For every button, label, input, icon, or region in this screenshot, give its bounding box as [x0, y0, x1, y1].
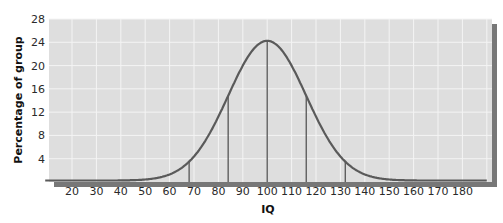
iq-distribution-chart: 282420161284 203040506070809010011012013…	[0, 0, 503, 223]
x-tick-label: 30	[89, 185, 103, 198]
y-tick-label: 12	[31, 106, 45, 119]
y-axis-ticks: 282420161284	[31, 13, 45, 166]
x-tick-label: 60	[163, 185, 177, 198]
x-tick-label: 50	[138, 185, 152, 198]
x-tick-label: 20	[65, 185, 79, 198]
x-tick-label: 150	[379, 185, 400, 198]
x-tick-label: 160	[403, 185, 424, 198]
x-tick-label: 180	[452, 185, 473, 198]
y-tick-label: 24	[31, 36, 45, 49]
x-tick-label: 70	[187, 185, 201, 198]
x-tick-label: 140	[354, 185, 375, 198]
plot-area	[49, 19, 492, 182]
x-tick-label: 100	[257, 185, 278, 198]
x-tick-label: 80	[211, 185, 225, 198]
y-tick-label: 8	[38, 129, 45, 142]
x-tick-label: 120	[306, 185, 327, 198]
x-tick-label: 90	[236, 185, 250, 198]
x-axis-title: IQ	[261, 203, 274, 216]
x-tick-label: 170	[428, 185, 449, 198]
x-tick-label: 110	[281, 185, 302, 198]
y-tick-label: 16	[31, 83, 45, 96]
y-tick-label: 28	[31, 13, 45, 26]
x-axis-ticks: 2030405060708090100110120130140150160170…	[65, 185, 473, 198]
y-axis-title: Percentage of group	[12, 36, 25, 163]
x-tick-label: 40	[114, 185, 128, 198]
y-tick-label: 4	[38, 153, 45, 166]
x-tick-label: 130	[330, 185, 351, 198]
y-tick-label: 20	[31, 60, 45, 73]
